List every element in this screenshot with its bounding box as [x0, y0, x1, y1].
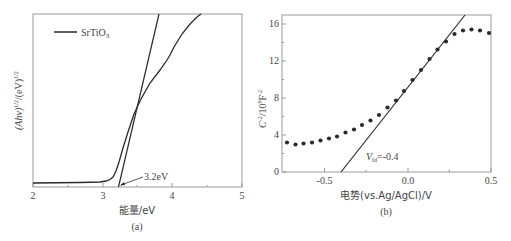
- x-ticks-b: [325, 168, 492, 172]
- x-tick-label: 3: [101, 190, 106, 201]
- x-ticks-a: [33, 183, 242, 187]
- data-points: [285, 27, 491, 146]
- x-axis-label-a: 能量/eV: [119, 204, 156, 216]
- caption-a: (a): [131, 221, 142, 233]
- x-tick-label: 0.5: [485, 175, 498, 186]
- fit-line: [341, 15, 465, 172]
- y-tick-label: 4: [274, 129, 279, 140]
- panel-a: 2 3 4 5 SrTiO3 3.2eV (Ahν)1/2/(eV)1/2 能量…: [13, 14, 245, 233]
- srtio3-curve: [33, 14, 201, 183]
- y-axis-label-b: C-2/109F-2: [257, 90, 268, 128]
- x-tick-label: 4: [170, 190, 175, 201]
- y-ticks-b: [282, 24, 286, 172]
- y-tick-label: 0: [274, 166, 279, 177]
- y-tick-label: 16: [269, 18, 279, 29]
- x-axis-label-b: 电势(vs.Ag/AgCl)/V: [340, 189, 432, 201]
- y-tick-label: 12: [269, 55, 279, 66]
- figure: 2 3 4 5 SrTiO3 3.2eV (Ahν)1/2/(eV)1/2 能量…: [0, 0, 511, 241]
- panel-b: 0 4 8 12 16 -0.5 0.0 0.5: [257, 15, 497, 218]
- legend-label: SrTiO3: [81, 27, 110, 40]
- x-tick-label: 0.0: [402, 175, 415, 186]
- tangent-line: [119, 14, 160, 187]
- caption-b: (b): [380, 206, 392, 218]
- x-tick-label: -0.5: [317, 175, 333, 186]
- annotation-flatband: Vfd=-0.4: [366, 151, 399, 163]
- x-tick-label: 2: [31, 190, 36, 201]
- x-tick-label: 5: [240, 190, 245, 201]
- plot-frame-a: [33, 14, 242, 187]
- plot-frame-b: [282, 15, 491, 172]
- arrow-head-icon: [120, 182, 125, 186]
- y-tick-label: 8: [274, 92, 279, 103]
- annotation-bandgap: 3.2eV: [144, 171, 169, 182]
- y-axis-label-a: (Ahν)1/2/(eV)1/2: [13, 71, 25, 130]
